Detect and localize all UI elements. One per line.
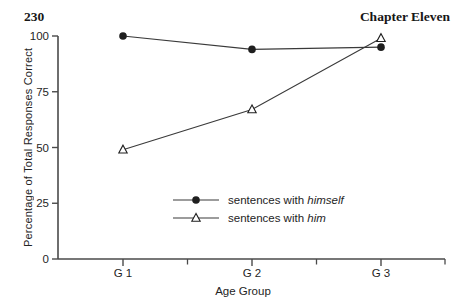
legend-label: sentences with him bbox=[228, 212, 326, 224]
plot-canvas: 0255075100G 1G 2G 3 bbox=[0, 0, 464, 305]
legend-marker-open-triangle bbox=[172, 211, 220, 225]
legend-label: sentences with himself bbox=[228, 194, 344, 206]
y-tick-label: 0 bbox=[43, 253, 49, 265]
legend-marker-glyph bbox=[192, 196, 200, 204]
y-tick-label: 25 bbox=[36, 197, 49, 209]
series-line-him bbox=[123, 38, 381, 150]
data-point-himself bbox=[377, 43, 385, 51]
legend-marker-filled-circle bbox=[172, 193, 220, 207]
legend: sentences with himselfsentences with him bbox=[172, 191, 344, 227]
data-point-himself bbox=[248, 46, 256, 54]
y-tick-label: 75 bbox=[36, 86, 49, 98]
legend-item-him: sentences with him bbox=[172, 209, 344, 227]
x-tick-label: G 2 bbox=[243, 267, 262, 279]
data-point-him bbox=[377, 34, 385, 42]
x-tick-label: G 1 bbox=[114, 267, 133, 279]
y-tick-label: 50 bbox=[36, 142, 49, 154]
book-page: 230 Chapter Eleven 0255075100G 1G 2G 3 P… bbox=[0, 0, 464, 305]
legend-marker-glyph bbox=[192, 213, 200, 221]
data-point-himself bbox=[119, 32, 127, 40]
legend-item-himself: sentences with himself bbox=[172, 191, 344, 209]
x-tick-label: G 3 bbox=[372, 267, 391, 279]
y-axis-title: Percentage of Total Responses Correct bbox=[22, 36, 34, 259]
data-point-him bbox=[248, 105, 256, 113]
x-axis-title: Age Group bbox=[58, 285, 428, 297]
